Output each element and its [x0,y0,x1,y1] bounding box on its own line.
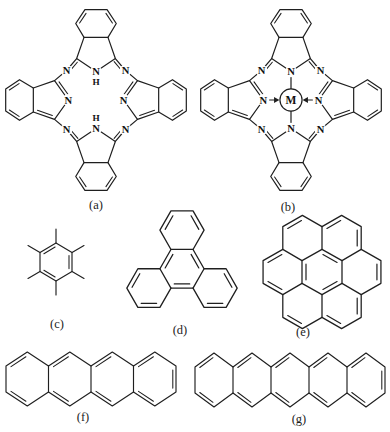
caption-a: (a) [74,198,118,212]
double-bonds [132,216,232,303]
meso-nitrogen-label: N [317,65,325,76]
single-bonds [6,352,176,406]
inner-nitrogen-label: N [260,95,268,106]
meso-nitrogen-label: N [258,124,266,135]
structure-triphenylene [122,205,242,316]
structure-metal-phthalocyanine: M N N N N N N N N [197,6,385,194]
meso-nitrogen-label: N [122,65,130,76]
meso-nitrogen-label: N [258,65,266,76]
single-bonds [127,211,237,308]
arrowhead-icon [274,97,279,103]
caption-g: (g) [277,412,321,426]
single-bonds [195,353,385,407]
single-bonds [263,215,381,328]
double-bonds [44,247,69,277]
double-bonds [9,13,182,186]
inner-nh-nitrogen-label: N [92,123,100,134]
single-bonds [28,229,84,295]
structure-phthalocyanine-free-base: N H N H N N N N N N [2,6,190,194]
caption-d: (d) [158,323,202,337]
inner-aza-nitrogen-label: N [120,95,128,106]
inner-nh-hydrogen-label: H [92,113,99,123]
inner-nh-hydrogen-label: H [92,77,99,87]
caption-c: (c) [35,317,79,331]
inner-nh-nitrogen-label: N [92,66,100,77]
meso-nitrogen-label: N [63,124,71,135]
double-bonds [200,358,382,403]
inner-aza-nitrogen-label: N [65,95,73,106]
caption-e: (e) [281,325,325,339]
structure-hexamethylbenzene [22,223,90,301]
arrowhead-icon [303,97,308,103]
figure-canvas: N H N H N N N N N N [0,0,390,432]
structure-coronene [259,212,385,332]
meso-nitrogen-label: N [63,65,71,76]
meso-nitrogen-label: N [317,124,325,135]
inner-nitrogen-label: N [287,123,295,134]
double-bonds [11,357,173,401]
structure-tetracene [3,349,181,409]
inner-nitrogen-label: N [315,95,323,106]
inner-nitrogen-label: N [287,66,295,77]
caption-f: (f) [61,410,105,424]
metal-label: M [286,94,297,106]
meso-nitrogen-label: N [122,124,130,135]
caption-b: (b) [266,200,310,214]
structure-pentacene [192,350,388,410]
single-bonds [6,10,187,191]
